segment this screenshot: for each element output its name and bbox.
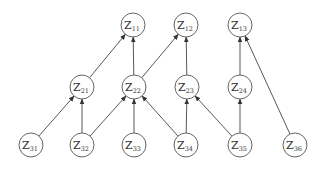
nodes: Z11Z12Z13Z21Z22Z23Z24Z31Z32Z33Z34Z35Z36 (19, 13, 307, 157)
node-z33: Z33 (122, 133, 146, 157)
node-z13: Z13 (228, 13, 252, 37)
node-z11: Z11 (121, 13, 145, 37)
node-z24: Z24 (228, 75, 252, 99)
edge-z22-to-z11 (133, 37, 134, 75)
node-z32: Z32 (70, 133, 94, 157)
edge-z23-to-z12 (186, 37, 187, 75)
node-z23: Z23 (175, 75, 199, 99)
node-z12: Z12 (174, 13, 198, 37)
node-z21: Z21 (70, 75, 94, 99)
node-z31: Z31 (19, 133, 43, 157)
edge-z21-to-z11 (90, 34, 126, 77)
edge-z31-to-z21 (39, 96, 74, 136)
edge-z34-to-z23 (186, 99, 187, 133)
node-z34: Z34 (174, 133, 198, 157)
node-z22: Z22 (122, 75, 146, 99)
edge-z32-to-z22 (90, 96, 126, 136)
graph-diagram: Z11Z12Z13Z21Z22Z23Z24Z31Z32Z33Z34Z35Z36 (0, 0, 325, 171)
edge-z35-to-z23 (195, 96, 232, 136)
edge-z22-to-z12 (142, 34, 179, 78)
node-z35: Z35 (228, 133, 252, 157)
node-z36: Z36 (283, 133, 307, 157)
edge-z34-to-z22 (142, 96, 178, 136)
